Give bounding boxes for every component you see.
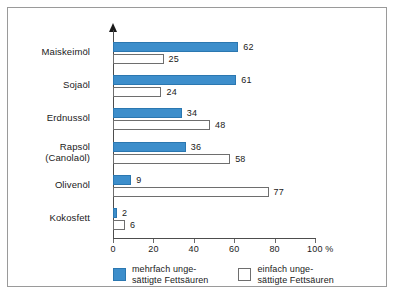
bar-value-polyunsaturated: 61: [241, 75, 251, 85]
bar-monounsaturated: [113, 220, 125, 230]
legend-label: mehrfach unge-sättigte Fettsäuren: [132, 264, 208, 286]
bar-value-monounsaturated: 24: [166, 87, 176, 97]
category-label-line: Rapsöl: [45, 141, 90, 152]
category-label: Sojaöl: [63, 79, 90, 90]
x-axis-tick-label: 60: [229, 244, 239, 254]
x-axis-line: [113, 238, 316, 239]
x-axis-tick-label: 20: [148, 244, 158, 254]
bar-polyunsaturated: [113, 75, 236, 85]
bar-monounsaturated: [113, 87, 161, 97]
category-label: Maiskeimöl: [41, 46, 90, 57]
category-label-line: Maiskeimöl: [41, 46, 90, 57]
bar-monounsaturated: [113, 54, 164, 64]
x-axis-tick-mark: [275, 239, 276, 243]
category-label-line: Erdnussöl: [47, 112, 90, 123]
bar-monounsaturated: [113, 120, 210, 130]
bar-value-polyunsaturated: 62: [243, 42, 253, 52]
legend-label-line: einfach unge-: [257, 264, 333, 275]
legend-label-line: sättigte Fettsäuren: [257, 275, 333, 286]
x-axis-tick-mark: [234, 239, 235, 243]
bar-polyunsaturated: [113, 108, 182, 118]
bar-value-monounsaturated: 6: [130, 220, 135, 230]
bar-value-monounsaturated: 48: [215, 120, 225, 130]
legend-swatch-poly: [113, 268, 126, 281]
legend-label: einfach unge-sättigte Fettsäuren: [257, 264, 333, 286]
legend-label-line: mehrfach unge-: [132, 264, 208, 275]
category-label: Olivenöl: [55, 179, 90, 190]
x-axis-tick-label: 100 %: [307, 244, 334, 254]
bar-monounsaturated: [113, 154, 230, 164]
bar-polyunsaturated: [113, 42, 238, 52]
bar-value-polyunsaturated: 9: [136, 175, 141, 185]
category-label: Kokosfett: [49, 212, 90, 223]
legend-label-line: sättigte Fettsäuren: [132, 275, 208, 286]
bar-value-polyunsaturated: 34: [187, 108, 197, 118]
legend-item: mehrfach unge-sättigte Fettsäuren: [113, 264, 208, 286]
bar-polyunsaturated: [113, 142, 186, 152]
chart-legend: mehrfach unge-sättigte Fettsäureneinfach…: [113, 264, 334, 286]
category-label-line: Sojaöl: [63, 79, 90, 90]
bar-value-monounsaturated: 77: [274, 187, 284, 197]
chart-page: 020406080100 % Maiskeimöl6225Sojaöl6124E…: [0, 0, 396, 295]
chart-frame: 020406080100 % Maiskeimöl6225Sojaöl6124E…: [7, 7, 387, 287]
category-label: Erdnussöl: [47, 112, 90, 123]
bar-value-polyunsaturated: 2: [122, 208, 127, 218]
x-axis-tick-mark: [194, 239, 195, 243]
x-axis-tick-mark: [113, 239, 114, 243]
x-axis-tick-mark: [315, 239, 316, 243]
bar-monounsaturated: [113, 187, 269, 197]
bar-value-monounsaturated: 25: [169, 54, 179, 64]
bar-value-monounsaturated: 58: [235, 154, 245, 164]
x-axis-tick-label: 80: [269, 244, 279, 254]
legend-swatch-mono: [238, 268, 251, 281]
category-label: Rapsöl(Canolaöl): [45, 141, 90, 163]
category-label-line: Olivenöl: [55, 179, 90, 190]
bar-polyunsaturated: [113, 175, 131, 185]
x-axis-tick-mark: [153, 239, 154, 243]
x-axis-tick-label: 0: [110, 244, 115, 254]
category-label-line: (Canolaöl): [45, 152, 90, 163]
bar-value-polyunsaturated: 36: [191, 142, 201, 152]
x-axis-tick-label: 40: [189, 244, 199, 254]
bar-polyunsaturated: [113, 208, 117, 218]
legend-item: einfach unge-sättigte Fettsäuren: [238, 264, 333, 286]
category-label-line: Kokosfett: [49, 212, 90, 223]
